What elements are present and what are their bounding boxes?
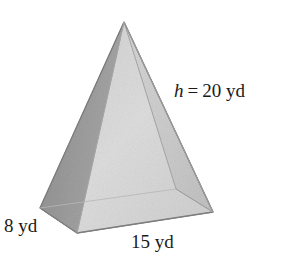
height-label: h=20 yd bbox=[174, 81, 245, 100]
depth-label: 8 yd bbox=[4, 216, 37, 235]
height-equals: = bbox=[188, 80, 199, 101]
height-variable: h bbox=[174, 80, 184, 101]
width-label: 15 yd bbox=[131, 232, 174, 251]
pyramid-figure: h=20 yd 8 yd 15 yd bbox=[0, 0, 286, 260]
height-value: 20 yd bbox=[202, 80, 245, 101]
pyramid-drawing bbox=[0, 0, 286, 260]
